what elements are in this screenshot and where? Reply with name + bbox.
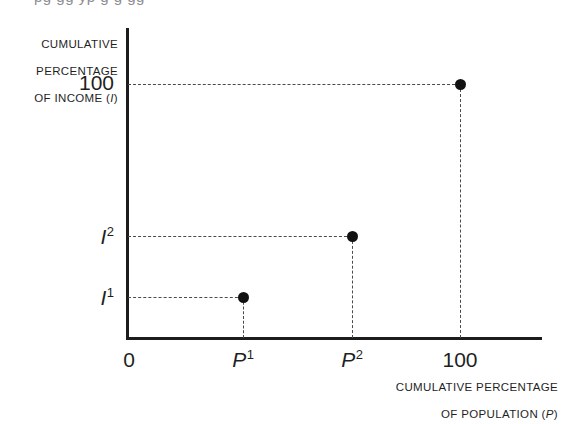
cropped-text-glyphs: pg gg yp g g gg <box>34 0 145 5</box>
dashed-leader-horizontal-i2 <box>128 236 352 237</box>
dashed-leader-vertical-100 <box>460 84 461 338</box>
y-tick-label-i2: I2 <box>58 226 114 247</box>
lorenz-curve-figure: pg gg yp g g gg CUMULATIVE PERCENTAGE OF… <box>0 0 570 424</box>
x-tick-p1-superscript: 1 <box>247 347 254 362</box>
x-axis-title-line-1: CUMULATIVE PERCENTAGE <box>396 381 558 393</box>
x-axis-line <box>126 337 542 340</box>
x-tick-p2-superscript: 2 <box>356 347 363 362</box>
dashed-leader-vertical-p2 <box>352 236 353 338</box>
y-tick-i1-superscript: 1 <box>107 285 114 300</box>
y-tick-i2-superscript: 2 <box>107 224 114 239</box>
x-tick-100-text: 100 <box>442 348 477 371</box>
dashed-leader-horizontal-100 <box>128 84 460 85</box>
data-point-p1-i1 <box>238 292 249 303</box>
x-axis-title-line-2-suffix: ) <box>554 408 558 420</box>
y-tick-label-100: 100 <box>58 72 114 93</box>
y-axis-title-line-1: CUMULATIVE <box>41 38 118 50</box>
y-tick-i1-symbol: I <box>100 286 106 309</box>
x-tick-label-p2: P2 <box>322 349 382 370</box>
cropped-text-above-figure: pg gg yp g g gg <box>0 0 570 7</box>
x-tick-0-text: 0 <box>123 348 135 371</box>
dashed-leader-vertical-p1 <box>243 297 244 338</box>
dashed-leader-horizontal-i1 <box>128 297 243 298</box>
x-tick-p2-symbol: P <box>341 348 355 371</box>
y-tick-i2-symbol: I <box>100 225 106 248</box>
x-tick-label-p1: P1 <box>213 349 273 370</box>
x-tick-p1-symbol: P <box>232 348 246 371</box>
y-tick-label-i1: I1 <box>58 287 114 308</box>
x-axis-title-line-2-prefix: OF POPULATION ( <box>441 408 546 420</box>
y-tick-100-text: 100 <box>79 71 114 94</box>
data-point-p2-i2 <box>347 231 358 242</box>
y-axis-title-line-3-suffix: ) <box>114 92 118 104</box>
x-axis-title-symbol: P <box>546 408 554 420</box>
y-axis-line <box>126 28 129 340</box>
x-tick-label-0: 0 <box>99 349 159 370</box>
x-axis-title: CUMULATIVE PERCENTAGE OF POPULATION (P) <box>322 367 558 421</box>
data-point-100-100 <box>455 79 466 90</box>
x-tick-label-100: 100 <box>430 349 490 370</box>
